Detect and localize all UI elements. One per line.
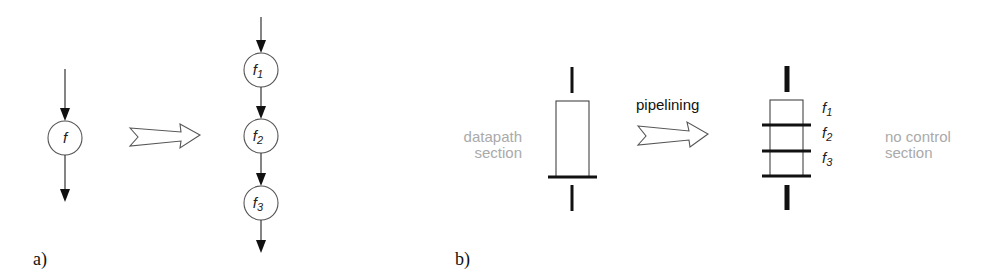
stage-label-f2: f2 — [822, 124, 832, 143]
no-control-caption-line1: no control — [885, 128, 951, 145]
arrowhead-icon — [256, 40, 266, 53]
panel-a-label: a) — [33, 249, 47, 270]
single-node-graph: f — [48, 69, 82, 202]
pipelining-diagram: f f1 f2 f3 — [0, 0, 996, 279]
combinational-block — [556, 101, 589, 177]
arrowhead-icon — [60, 108, 70, 121]
panel-a: f f1 f2 f3 — [33, 17, 278, 270]
arrowhead-icon — [256, 106, 266, 119]
pipelining-label: pipelining — [636, 96, 699, 113]
panel-b-label: b) — [455, 249, 470, 270]
pipelined-block — [762, 66, 811, 210]
combinational-block — [770, 100, 803, 176]
pipelined-node-chain: f1 f2 f3 — [244, 17, 278, 253]
datapath-block — [548, 67, 597, 211]
arrowhead-icon — [256, 173, 266, 186]
no-control-caption-line2: section — [885, 144, 933, 161]
hollow-pipelining-arrow-icon — [638, 122, 708, 147]
stage-label-f1: f1 — [822, 99, 832, 118]
datapath-caption-line2: section — [474, 144, 522, 161]
hollow-transform-arrow-icon — [130, 124, 200, 148]
arrowhead-icon — [60, 189, 70, 202]
panel-b: datapath section pipelining f1 f2 f3 — [455, 66, 951, 270]
datapath-caption-line1: datapath — [464, 128, 522, 145]
arrowhead-icon — [256, 240, 266, 253]
stage-label-f3: f3 — [822, 149, 833, 168]
